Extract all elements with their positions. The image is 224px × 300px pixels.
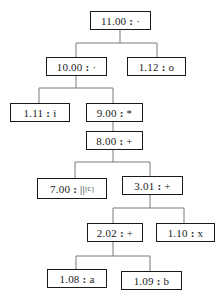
node-separator: :: [46, 107, 50, 119]
node-value: 1.09: [134, 275, 154, 287]
tree-node-10.00: 10.00 : ·: [46, 57, 107, 76]
tree-node-1.11: 1.11 : i: [10, 103, 70, 122]
node-symbol: +: [164, 180, 170, 192]
node-symbol: ||: [80, 183, 85, 195]
edge-3.01-children: [113, 194, 184, 223]
tree-edges: [0, 0, 224, 300]
node-separator: :: [157, 275, 161, 287]
node-separator: :: [86, 61, 90, 73]
edge-8.00-children: [75, 149, 150, 178]
node-subscript: [C]: [85, 186, 94, 192]
node-value: 1.10: [168, 227, 188, 239]
node-value: 3.01: [134, 180, 154, 192]
node-value: 9.00: [97, 107, 117, 119]
node-symbol: i: [53, 107, 56, 119]
tree-node-2.02: 2.02 : +: [87, 223, 143, 242]
node-symbol: ·: [92, 61, 96, 73]
tree-diagram: 11.00 : · 10.00 : · 1.12 : o 1.11 : i 9.…: [0, 0, 224, 300]
node-value: 1.08: [59, 273, 79, 285]
tree-node-8.00: 8.00 : +: [86, 131, 143, 150]
tree-node-3.01: 3.01 : +: [122, 176, 183, 195]
node-separator: :: [157, 180, 161, 192]
node-separator: :: [129, 15, 133, 27]
edge-10.00-children: [39, 75, 113, 103]
node-separator: :: [191, 227, 195, 239]
node-separator: :: [162, 61, 166, 73]
node-symbol: ·: [136, 15, 140, 27]
node-value: 2.02: [97, 227, 117, 239]
tree-node-1.08: 1.08 : a: [47, 269, 107, 288]
node-value: 10.00: [57, 61, 83, 73]
node-value: 8.00: [96, 135, 116, 147]
node-symbol: x: [198, 227, 204, 239]
node-value: 1.12: [139, 61, 159, 73]
node-separator: :: [120, 107, 124, 119]
node-symbol: a: [89, 273, 94, 285]
node-symbol: +: [126, 135, 132, 147]
node-symbol: b: [164, 275, 170, 287]
tree-node-1.10: 1.10 : x: [156, 223, 215, 242]
node-symbol: +: [127, 227, 133, 239]
node-value: 7.00: [50, 183, 70, 195]
tree-node-7.00: 7.00 : ||[C]: [37, 178, 107, 199]
node-symbol: o: [169, 61, 175, 73]
edge-2.02-children: [76, 241, 150, 271]
tree-node-11.00: 11.00 : ·: [90, 11, 151, 30]
node-separator: :: [83, 273, 87, 285]
node-value: 11.00: [101, 15, 126, 27]
edge-11.00-children: [76, 29, 157, 57]
node-symbol: *: [127, 107, 133, 119]
node-value: 1.11: [24, 107, 44, 119]
tree-node-1.09: 1.09 : b: [121, 271, 182, 290]
tree-node-1.12: 1.12 : o: [127, 57, 186, 76]
tree-node-9.00: 9.00 : *: [86, 103, 143, 122]
node-separator: :: [120, 227, 124, 239]
node-separator: :: [73, 183, 77, 195]
node-separator: :: [119, 135, 123, 147]
